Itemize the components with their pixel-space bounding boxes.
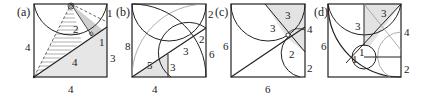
label-r2: 1 <box>352 53 358 65</box>
label-r1: 1 <box>359 46 365 58</box>
label-hyp: 5 <box>147 59 153 71</box>
panel-label: (a) <box>17 5 30 19</box>
panel-label: (b) <box>116 5 130 19</box>
side-label-bottom: 6 <box>265 83 271 95</box>
side-label-right-top: 2 <box>208 8 214 20</box>
panel-b: (b) 8 4 2 6 5 3 3 2 <box>116 4 215 95</box>
label-top: 3 <box>381 7 387 19</box>
side-label-right: 3 <box>110 52 116 64</box>
side-label-right-bottom: 2 <box>404 63 410 75</box>
panel-a: (a) 4 4 3 1 2 4 1 <box>17 3 116 95</box>
label-vert: 3 <box>355 20 361 32</box>
label-top: 3 <box>285 9 291 21</box>
label-mid: 2 <box>289 48 295 60</box>
side-label-right-top: 4 <box>404 26 410 38</box>
side-label-left: 4 <box>25 41 31 53</box>
label-leg: 3 <box>170 61 176 73</box>
side-label-bottom: 4 <box>152 83 158 95</box>
label-diag: 3 <box>183 45 189 57</box>
arc-light <box>378 32 401 77</box>
side-label-left: 8 <box>125 40 131 52</box>
side-label-left: 6 <box>223 40 229 52</box>
side-label-bottom: 4 <box>68 83 74 95</box>
geometry-figure: (a) 4 4 3 1 2 4 1 (b) 8 4 2 6 5 3 3 2 <box>0 0 428 97</box>
label-small: 1 <box>99 36 105 48</box>
panel-c: (c) 6 6 4 2 3 3 2 <box>215 4 313 95</box>
side-label-right-top: 4 <box>307 23 313 35</box>
label-small: 2 <box>199 33 205 45</box>
vertex-dot <box>33 76 35 78</box>
label-diag: 3 <box>270 22 276 34</box>
side-label-right-mid: 6 <box>209 48 215 60</box>
label-diagonal: 4 <box>72 56 78 68</box>
panel-label: (d) <box>314 5 328 19</box>
small-circle <box>286 33 290 37</box>
side-label-right-bottom: 2 <box>307 62 313 74</box>
panel-d: (d) 6 4 2 3 3 1 1 <box>314 4 410 77</box>
label-hatched: 2 <box>73 23 79 35</box>
side-label-corner: 1 <box>107 7 113 19</box>
panel-label: (c) <box>215 5 228 19</box>
diagonal-line <box>132 28 206 77</box>
side-label-left: 6 <box>321 40 327 52</box>
